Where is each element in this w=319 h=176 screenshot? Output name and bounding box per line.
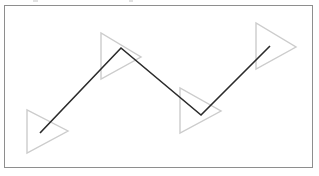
triangle-4 [256,23,296,69]
screenshot-root [0,0,319,176]
triangle-markers-layer [27,23,296,153]
triangle-1 [27,110,68,153]
polyline-series-layer [40,46,270,133]
triangle-3 [180,88,221,133]
figure-canvas [0,0,319,176]
triangle-2 [101,33,141,79]
zigzag-polyline [40,46,270,133]
